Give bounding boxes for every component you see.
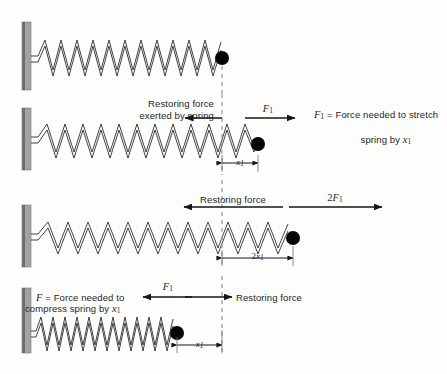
spring-stretched-x1 [31, 124, 257, 158]
legend-text-line2-subscript-panel4: 1 [117, 306, 121, 315]
spring-force-figure: Restoring forceexerted by spring F1 F1 =… [0, 0, 447, 374]
dimension-label-panel3: 2x1 [222, 251, 293, 262]
applied-force-label-panel2: F1 [248, 103, 288, 117]
dimension-label-panel4: x1 [177, 339, 222, 350]
legend-stretch-panel2: F1 = Force needed to stretch spring by x… [303, 97, 447, 159]
applied-force-label-panel4: F1 [148, 281, 188, 295]
spring-relaxed [31, 40, 221, 76]
applied-force-subscript-panel3: 1 [339, 195, 343, 204]
wall-bracket-2 [22, 108, 31, 170]
applied-force-subscript-panel4: 1 [169, 284, 173, 293]
applied-force-label-panel3: 2F1 [305, 192, 365, 206]
spring-stretched-2x1 [31, 222, 288, 254]
restoring-force-label-line1: Restoring force [148, 98, 214, 109]
wall-bracket-3 [22, 205, 31, 267]
dimension-subscript-panel2: 1 [240, 159, 244, 168]
legend-equals-panel2: = [324, 109, 335, 120]
wall-bracket-1 [22, 22, 31, 90]
restoring-force-text-panel3: Restoring force [200, 194, 266, 205]
spring-end-ball-relaxed [215, 51, 229, 65]
dimension-subscript-panel3: 1 [260, 253, 264, 262]
restoring-force-label-panel4: Restoring force [236, 292, 346, 304]
panel-relaxed [22, 22, 229, 96]
legend-text-line2-prefix-panel2: spring by [361, 134, 403, 145]
legend-text-line2-prefix-panel4: compress spring by [25, 303, 112, 314]
legend-equals-panel4: = [42, 292, 53, 303]
legend-text-line1-panel2: Force needed to stretch [335, 109, 438, 120]
restoring-force-label-panel2: Restoring forceexerted by spring [106, 98, 214, 121]
legend-text-line1-panel4: Force needed to [54, 292, 125, 303]
dimension-subscript-panel4: 1 [200, 341, 204, 350]
spring-end-ball-stretched-2x1 [286, 231, 300, 245]
restoring-force-label-panel3: Restoring force [183, 194, 283, 206]
dimension-label-panel2: x1 [222, 157, 258, 168]
spring-end-ball-stretched-x1 [251, 137, 265, 151]
legend-compress-panel4: F = Force needed tocompress spring by x1 [25, 280, 157, 328]
restoring-force-text-panel4: Restoring force [236, 292, 302, 303]
restoring-force-label-line2: exerted by spring [139, 110, 214, 121]
applied-force-subscript-panel2: 1 [269, 106, 273, 115]
legend-text-line2-subscript-panel2: 1 [408, 137, 412, 146]
